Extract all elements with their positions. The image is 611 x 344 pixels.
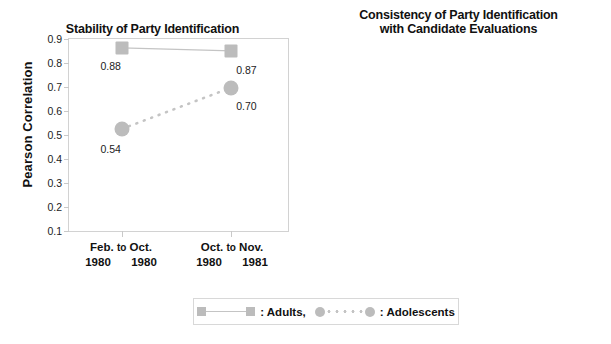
- chart-title-left: Stability of Party Identification: [0, 22, 305, 36]
- chart-panel-left: Stability of Party Identification Pearso…: [0, 0, 305, 290]
- adolescents-line-left: [122, 87, 232, 129]
- x-cat-left-0-month2: Oct.: [130, 241, 152, 253]
- chart-title-right-line1: Consistency of Party Identification: [306, 8, 611, 22]
- circle-marker-icon: [315, 307, 325, 317]
- y-tick-left-5: 0.4: [47, 153, 69, 165]
- x-cat-left-1-to: to: [226, 242, 235, 253]
- x-cat-left-0-month1: Feb.: [90, 241, 114, 253]
- data-label-adults-left-0: 0.88: [100, 60, 120, 72]
- data-point-adolescents-left-0: [114, 122, 129, 137]
- legend-entry-adolescents: : Adolescents: [315, 306, 455, 318]
- square-marker-icon: [197, 307, 206, 316]
- x-cat-left-1-month2: Nov.: [239, 241, 263, 253]
- legend-label-adults: : Adults,: [260, 306, 306, 318]
- chart-panel-right: Consistency of Party Identification with…: [306, 0, 611, 290]
- data-point-adolescents-left-1: [224, 80, 239, 95]
- y-tick-left-8: 0.1: [47, 225, 69, 237]
- x-cat-left-1-year2: 1981: [242, 256, 268, 268]
- y-tick-left-6: 0.3: [47, 177, 69, 189]
- x-cat-left-0-year2: 1980: [131, 256, 157, 268]
- y-tick-left-1: 0.8: [47, 57, 69, 69]
- x-axis-category-left-0: Feb. to Oct. 1980 1980: [85, 240, 157, 270]
- chart-title-right: Consistency of Party Identification with…: [306, 8, 611, 36]
- x-cat-left-1-month1: Oct.: [201, 241, 223, 253]
- y-tick-left-3: 0.6: [47, 105, 69, 117]
- circle-marker-icon-2: [365, 307, 375, 317]
- square-marker-icon-2: [246, 307, 255, 316]
- x-tick-mark-left-0: [122, 231, 123, 237]
- y-tick-left-2: 0.7: [47, 81, 69, 93]
- legend-label-adolescents: : Adolescents: [380, 306, 455, 318]
- legend: : Adults, : Adolescents: [193, 298, 459, 325]
- data-point-adults-left-1: [225, 44, 238, 57]
- chart-title-right-line2: with Candidate Evaluations: [306, 22, 611, 36]
- y-tick-left-0: 0.9: [47, 33, 69, 45]
- data-label-adolescents-left-1: 0.70: [236, 100, 256, 112]
- adults-line-left: [122, 48, 232, 51]
- plot-area-left: 0.9 0.8 0.7 0.6 0.5 0.4 0.3 0.2 0.1 0.88…: [68, 38, 289, 232]
- dotted-line-icon: [325, 310, 365, 313]
- y-tick-left-4: 0.5: [47, 129, 69, 141]
- legend-entry-adults: : Adults,: [197, 306, 306, 318]
- data-label-adults-left-1: 0.87: [236, 64, 256, 76]
- y-tick-left-7: 0.2: [47, 201, 69, 213]
- x-axis-category-left-1: Oct. to Nov. 1980 1981: [196, 240, 268, 270]
- figure-root: { "figure": { "axis_label": "Pearson Cor…: [0, 0, 611, 344]
- data-point-adults-left-0: [115, 41, 128, 54]
- x-cat-left-0-to: to: [117, 242, 126, 253]
- solid-line-icon: [206, 311, 246, 312]
- x-cat-left-0-year1: 1980: [85, 256, 111, 268]
- x-cat-left-1-year1: 1980: [196, 256, 222, 268]
- data-label-adolescents-left-0: 0.54: [100, 143, 120, 155]
- y-axis-label-left: Pearson Correlation: [20, 68, 35, 188]
- x-tick-mark-left-1: [231, 231, 232, 237]
